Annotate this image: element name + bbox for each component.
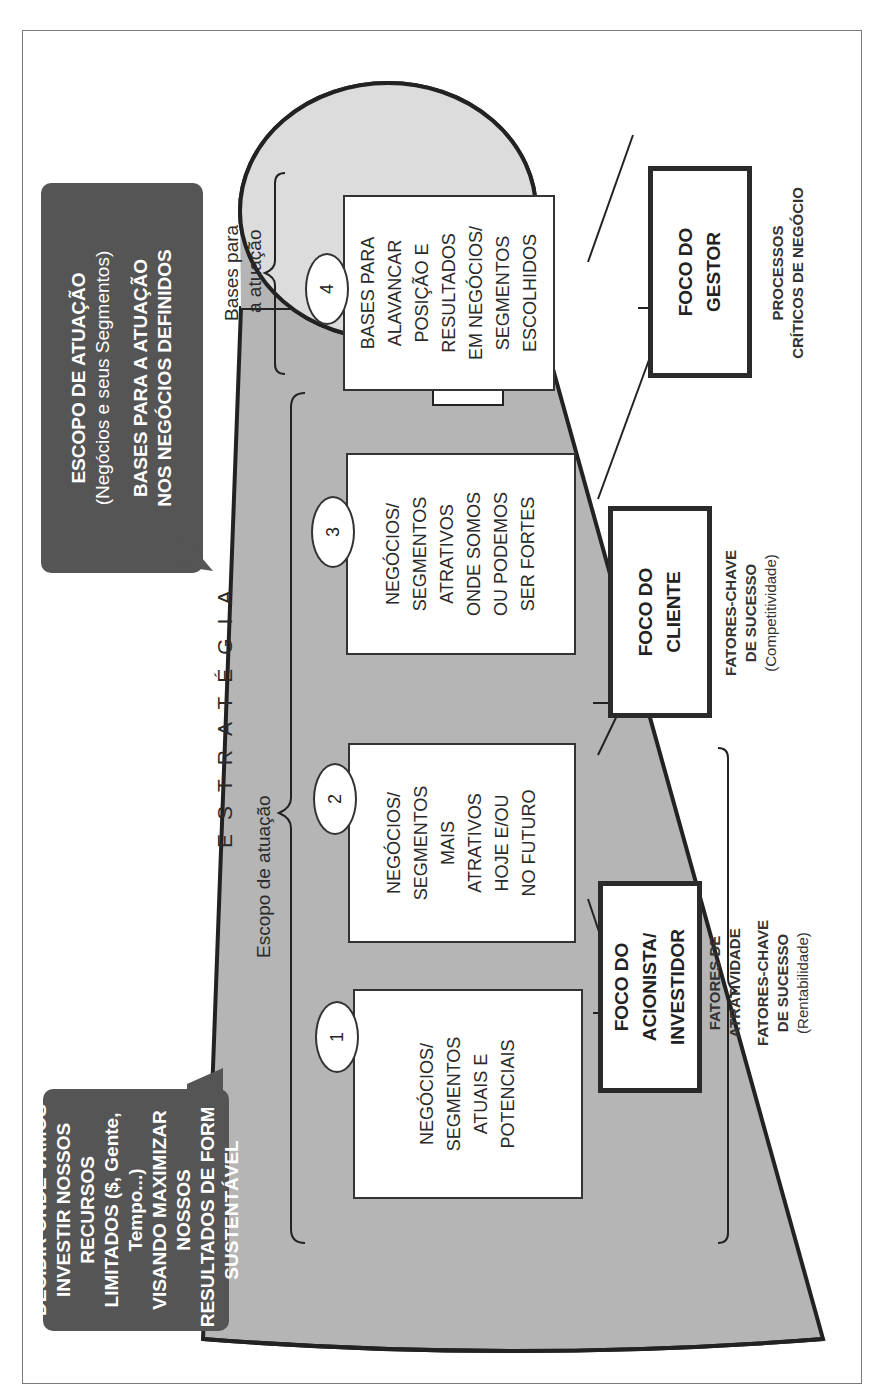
bubble-subtitle: (Negócios e seus Segmentos) [91,251,115,506]
callout-bubble-decision: DECIDIR ONDE VAMOS INVESTIR NOSSOS RECUR… [43,1089,229,1331]
focus-line: FOCO DO [672,228,700,317]
focus-box-manager: FOCO DO GESTOR [648,166,752,378]
bubble-line: RESULTADOS DE FORMA [196,1093,220,1328]
scope-label: Escopo de atuação [253,795,275,958]
focus-line: GESTOR [700,232,728,312]
caption-key-success-profitability: FATORES-CHAVE DE SUCESSO (Rentabilidade) [753,883,813,1083]
step-line: ESCOLHIDOS [517,234,544,352]
diagram-frame: DECIDIR ONDE VAMOS INVESTIR NOSSOS RECUR… [22,30,862,1384]
step-box-1: NEGÓCIOS/ SEGMENTOS ATUAIS E POTENCIAIS [353,989,583,1199]
step-line: OU PODEMOS [488,492,515,616]
step-box-3: NEGÓCIOS/ SEGMENTOS ATRATIVOS ONDE SOMOS… [346,453,576,655]
step-line: SEGMENTOS [441,1037,468,1152]
caption-key-success-competitiveness: FATORES-CHAVE DE SUCESSO (Competitividad… [721,513,781,713]
bubble-line: INVESTIR NOSSOS RECURSOS [52,1089,100,1331]
bases-label-line2: a atuação [244,230,266,313]
step-line: ONDE SOMOS [461,492,488,616]
step-line: SER FORTES [515,497,542,612]
caption-attractiveness: FATORES DE ATRATIVIDADE [705,883,745,1083]
bases-label-line1: Bases para [221,225,243,321]
step-line: POSIÇÃO E [409,243,436,342]
step-line: SEGMENTOS [408,786,435,901]
focus-line: CLIENTE [660,571,688,652]
caption-line: DE SUCESSO [741,513,761,713]
bubble-title-2b: NOS NEGÓCIOS DEFINIDOS [153,249,177,507]
bubble-line: SUSTENTÁVEL [220,1140,244,1279]
caption-line: DE SUCESSO [773,883,793,1083]
step-line: NEGÓCIOS/ [414,1043,441,1145]
focus-line: INVESTIDOR [664,929,692,1045]
step-line: ALAVANCAR [382,240,409,346]
bubble-title: ESCOPO DE ATUAÇÃO [67,272,91,483]
focus-line: FOCO DO [608,943,636,1032]
caption-line: PROCESSOS [768,153,788,393]
step-number-4: 4 [305,253,349,325]
step-line: ATRATIVOS [462,793,489,892]
step-line: MAIS [435,821,462,865]
focus-box-investor: FOCO DO ACIONISTA/ INVESTIDOR [598,881,702,1093]
step-line: NO FUTURO [516,790,543,897]
focus-box-client: FOCO DO CLIENTE [608,506,712,718]
step-line: SEGMENTOS [407,497,434,612]
caption-sub: (Competitividade) [761,513,781,713]
step-line: ATRATIVOS [434,504,461,603]
step-box-4: BASES PARA ALAVANCAR POSIÇÃO E RESULTADO… [343,195,555,391]
focus-line: FOCO DO [632,568,660,657]
bubble-tail-decision [183,1048,243,1108]
bubble-line: DECIDIR ONDE VAMOS [28,1104,52,1316]
step-number-3: 3 [311,496,355,568]
caption-sub: (Rentabilidade) [793,883,813,1083]
step-line: HOJE E/OU [489,795,516,892]
caption-line: FATORES-CHAVE [753,883,773,1083]
step-number-2: 2 [313,763,357,835]
focus-line: ACIONISTA/ [636,933,664,1041]
caption-line: FATORES DE [705,883,725,1083]
bubble-title-2: BASES PARA A ATUAÇÃO [129,259,153,497]
step-box-2: NEGÓCIOS/ SEGMENTOS MAIS ATRATIVOS HOJE … [348,743,576,943]
step-line: EM NEGÓCIOS/ [463,226,490,360]
caption-line: CRÍTICOS DE NEGÓCIO [788,153,808,393]
bubble-line: VISANDO MAXIMIZAR NOSSOS [148,1089,196,1331]
caption-line: ATRATIVIDADE [725,883,745,1083]
caption-critical-processes: PROCESSOS CRÍTICOS DE NEGÓCIO [768,153,808,393]
step-line: POTENCIAIS [495,1039,522,1148]
diagram-title: ESTRATÉGIA [213,577,237,848]
bubble-tail-scope [173,515,233,575]
caption-line: FATORES-CHAVE [721,513,741,713]
step-line: RESULTADOS [436,233,463,352]
step-line: NEGÓCIOS/ [380,503,407,605]
bubble-line: LIMITADOS ($, Gente, Tempo...) [100,1089,148,1331]
step-line: ATUAIS E [468,1054,495,1135]
step-line: NEGÓCIOS/ [381,792,408,894]
step-line: SEGMENTOS [490,236,517,351]
step-number-1: 1 [315,1001,359,1073]
step-line: BASES PARA [355,237,382,350]
